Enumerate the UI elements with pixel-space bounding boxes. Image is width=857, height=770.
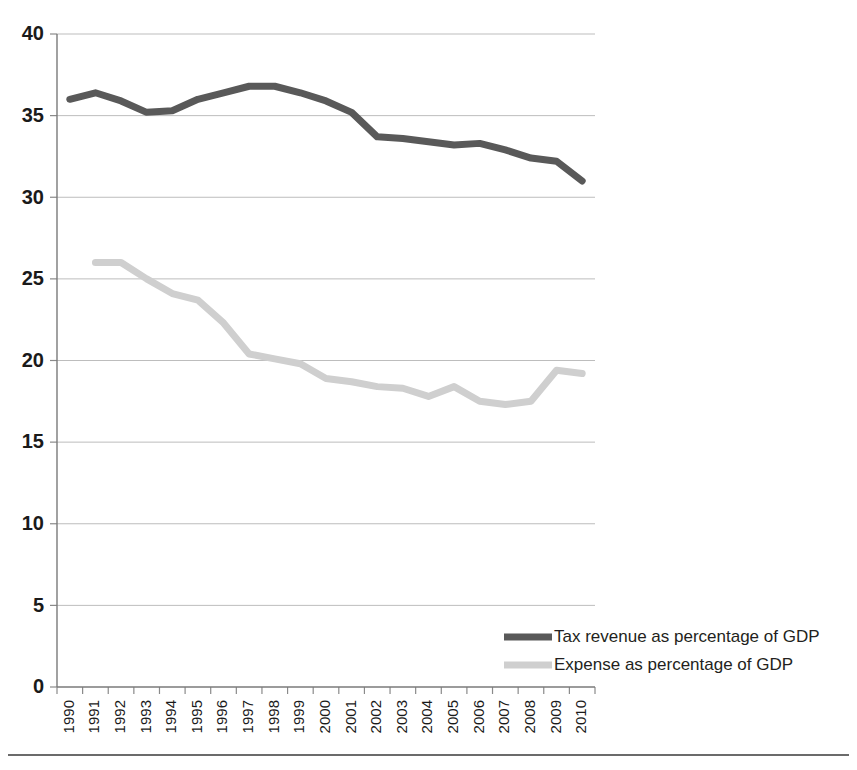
y-axis-label-10: 10 [22, 512, 44, 534]
x-axis-label-2003: 2003 [393, 700, 410, 733]
y-axis-label-20: 20 [22, 349, 44, 371]
x-axis-ticks-group [57, 687, 595, 694]
x-axis-label-2002: 2002 [367, 700, 384, 733]
series-line-expense [95, 263, 582, 405]
series-paths-group [70, 86, 582, 404]
x-axis-label-1998: 1998 [265, 700, 282, 733]
line-chart: 1990199119921993199419951996199719981999… [0, 0, 857, 770]
y-axis-label-15: 15 [22, 430, 44, 452]
x-axis-label-2004: 2004 [418, 700, 435, 733]
x-axis-label-1990: 1990 [60, 700, 77, 733]
x-axis-label-1991: 1991 [85, 700, 102, 733]
chart-container: 1990199119921993199419951996199719981999… [0, 0, 857, 770]
y-axis-label-0: 0 [33, 675, 44, 697]
x-axis-label-1996: 1996 [213, 700, 230, 733]
y-axis-label-30: 30 [22, 186, 44, 208]
y-axis-label-5: 5 [33, 594, 44, 616]
legend-label-tax-revenue: Tax revenue as percentage of GDP [554, 627, 820, 646]
y-axis-label-35: 35 [22, 104, 44, 126]
x-axis-label-1997: 1997 [239, 700, 256, 733]
x-axis-label-2009: 2009 [547, 700, 564, 733]
x-axis-label-2008: 2008 [521, 700, 538, 733]
x-axis-label-1994: 1994 [162, 700, 179, 733]
x-axis-label-1999: 1999 [290, 700, 307, 733]
x-axis-label-2006: 2006 [470, 700, 487, 733]
legend-label-expense: Expense as percentage of GDP [554, 655, 793, 674]
y-axis-label-25: 25 [22, 267, 44, 289]
x-axis-label-1992: 1992 [111, 700, 128, 733]
y-axis-label-40: 40 [22, 22, 44, 44]
series-line-tax-revenue [70, 86, 582, 181]
y-axis-ticks-group [50, 34, 57, 687]
x-axis-label-1995: 1995 [188, 700, 205, 733]
x-axis-label-2010: 2010 [572, 700, 589, 733]
x-axis-label-1993: 1993 [137, 700, 154, 733]
y-axis-labels-group: 0510152025303540 [22, 22, 44, 697]
x-axis-labels-group: 1990199119921993199419951996199719981999… [60, 700, 589, 733]
gridlines-group [57, 34, 595, 605]
x-axis-label-2005: 2005 [444, 700, 461, 733]
chart-legend: Tax revenue as percentage of GDPExpense … [504, 627, 820, 674]
x-axis-label-2000: 2000 [316, 700, 333, 733]
x-axis-label-2007: 2007 [495, 700, 512, 733]
x-axis-label-2001: 2001 [342, 700, 359, 733]
